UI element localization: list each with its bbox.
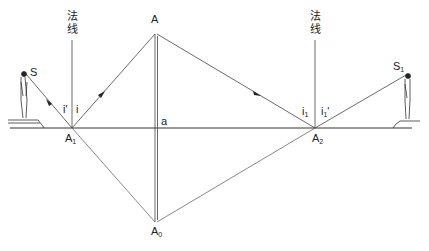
angle-i-prime-label: i' (63, 104, 68, 115)
ray-A-A2 (157, 34, 315, 128)
observer-left (8, 72, 44, 129)
reflection-diagram (0, 0, 429, 251)
angle-i1-prime-label: i1' (321, 106, 329, 118)
arrow-icon (46, 99, 52, 106)
normal-label-right: 法线 (309, 10, 321, 36)
ray-A1-A0 (72, 128, 155, 222)
point-A1-label: A1 (65, 133, 76, 145)
arrow-icon (253, 91, 261, 96)
point-a-label: a (161, 116, 167, 127)
point-A0-label: A0 (151, 226, 162, 238)
point-S1-label: S1 (393, 61, 404, 73)
point-A-label: A (151, 14, 158, 25)
angle-i1-label: i1 (302, 106, 308, 118)
ray-A2-S1 (315, 75, 406, 128)
angle-i-label: i (76, 104, 78, 115)
normal-label-left: 法线 (66, 10, 78, 36)
ray-A-A1 (72, 34, 155, 128)
point-S-label: S (30, 67, 37, 78)
observer-right (393, 74, 420, 129)
ray-A2-A0 (157, 128, 315, 222)
point-A2-label: A2 (312, 133, 323, 145)
